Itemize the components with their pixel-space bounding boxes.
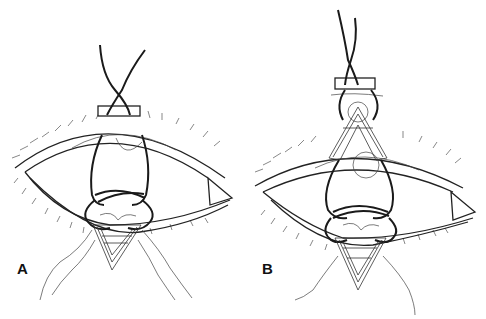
eyelid-suture-illustration	[0, 0, 486, 319]
bolster-a	[98, 106, 140, 116]
upper-lashes-b	[255, 131, 461, 172]
tarsal-wedge-upper-b	[329, 107, 387, 160]
figure-canvas: A B	[0, 0, 486, 319]
panel-label-a: A	[17, 260, 28, 277]
panel-label-b: B	[262, 260, 273, 277]
panel-a-drawing	[12, 45, 232, 300]
bolster-b	[335, 78, 375, 89]
panel-b-drawing	[255, 10, 475, 315]
